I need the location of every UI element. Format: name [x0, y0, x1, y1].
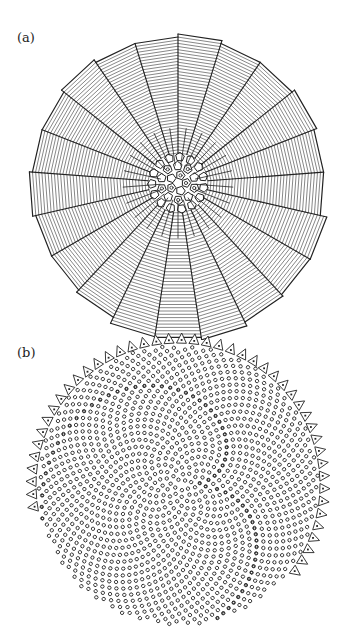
phyllotaxis-diagram [0, 0, 350, 629]
